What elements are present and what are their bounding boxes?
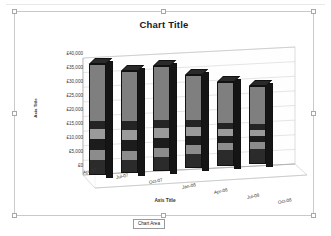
sheet-top-rule [6,4,325,5]
bar-side-face [266,83,273,167]
bar-front-face[interactable] [153,66,170,171]
chart-object[interactable]: Chart Title £40,000£35,000£30,000£25,000… [14,11,314,216]
bar-column[interactable] [217,12,234,217]
bar-side-face [106,61,113,178]
bar-segment[interactable] [250,142,265,149]
bar-segment[interactable] [154,138,169,148]
bar-front-face[interactable] [249,86,266,164]
bar-segment[interactable] [218,150,233,165]
bar-segment[interactable] [186,154,201,168]
resize-handle-bottom-left[interactable] [12,213,17,218]
bar-segment[interactable] [186,76,201,120]
bar-segment[interactable] [218,83,233,123]
resize-handle-middle-left[interactable] [12,111,17,116]
y-axis-tick-label: £30,000 [49,79,83,84]
y-axis-tick-label: £0 [49,163,83,168]
bar-segment[interactable] [154,67,169,121]
y-axis-tick-label: £40,000 [49,51,83,56]
resize-handle-top-center[interactable] [161,9,166,14]
bar-side-face [138,68,145,176]
bar-segment[interactable] [186,120,201,127]
bar-segment[interactable] [90,150,105,160]
bar-segment[interactable] [218,143,233,150]
bar-segment[interactable] [122,151,137,160]
bar-segment[interactable] [154,128,169,137]
bar-side-face [202,72,209,171]
y-axis-tick-label: £15,000 [49,121,83,126]
chart-area-tooltip: Chart Area [133,219,165,229]
bar-side-face [234,79,241,169]
plot-area[interactable]: £40,000£35,000£30,000£25,000£20,000£15,0… [15,12,315,217]
bar-segment[interactable] [90,129,105,139]
bar-segment[interactable] [186,136,201,145]
resize-handle-top-right[interactable] [311,9,316,14]
bar-segment[interactable] [250,87,265,124]
bar-column[interactable] [249,12,266,217]
bar-segment[interactable] [90,121,105,130]
bar-column[interactable] [121,12,138,217]
bar-front-face[interactable] [89,64,106,175]
bar-front-face[interactable] [217,82,234,166]
y-axis-tick-label: £20,000 [49,107,83,112]
bar-front-face[interactable] [185,75,202,168]
y-axis-tick-label: £35,000 [49,65,83,70]
bar-front-face[interactable] [121,71,138,173]
bar-segment[interactable] [250,149,265,163]
bar-segment[interactable] [122,140,137,151]
bar-segment[interactable] [90,65,105,121]
bar-segment[interactable] [154,157,169,169]
bar-segment[interactable] [186,127,201,135]
y-axis-tick-label: £5,000 [49,149,83,154]
y-axis-tick-label: £25,000 [49,93,83,98]
bar-segment[interactable] [90,139,105,150]
resize-handle-top-left[interactable] [12,9,17,14]
x-axis-title[interactable]: Axis Title [15,198,315,203]
resize-handle-bottom-center[interactable] [161,213,166,218]
bar-segment[interactable] [122,160,137,172]
bar-column[interactable] [89,12,106,217]
bar-segment[interactable] [154,120,169,128]
y-axis-title[interactable]: Axis Title [33,98,38,117]
y-axis-tick-label: £10,000 [49,135,83,140]
bar-segment[interactable] [218,136,233,143]
bar-segment[interactable] [122,72,137,121]
bar-side-face [170,63,177,174]
bar-segment[interactable] [122,130,137,140]
y-axis-tick-labels: £40,000£35,000£30,000£25,000£20,000£15,0… [41,12,83,217]
bar-column[interactable] [153,12,170,217]
bar-segment[interactable] [122,121,137,130]
bar-segment[interactable] [186,145,201,154]
bar-segment[interactable] [154,148,169,157]
resize-handle-bottom-right[interactable] [311,213,316,218]
resize-handle-middle-right[interactable] [311,111,316,116]
